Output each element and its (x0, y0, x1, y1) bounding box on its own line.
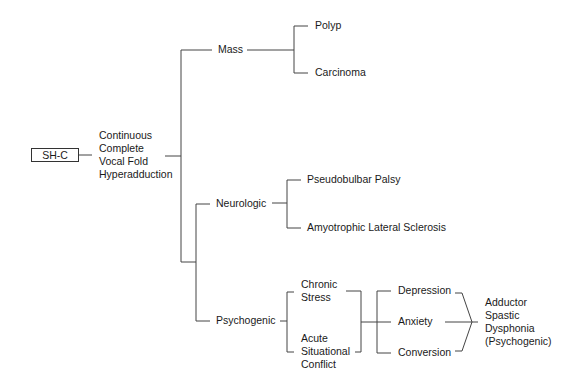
branch-mass: Mass (218, 43, 243, 56)
leaf-pseudobulbar-palsy: Pseudobulbar Palsy (307, 173, 400, 186)
leaf-carcinoma: Carcinoma (315, 66, 366, 79)
condition-depression: Depression (398, 284, 451, 297)
branch-neurologic: Neurologic (216, 197, 266, 210)
cause-chronic-stress: Chronic Stress (301, 278, 337, 304)
branch-psychogenic: Psychogenic (216, 314, 276, 327)
condition-anxiety: Anxiety (398, 315, 432, 328)
leaf-polyp: Polyp (315, 19, 341, 32)
outcome-adductor-spastic-dysphonia: Adductor Spastic Dysphonia (Psychogenic) (485, 296, 552, 348)
vocal-fold-hyperadduction-diagram: SH-C Continuous Complete Vocal Fold Hype… (0, 0, 577, 387)
cause-acute-situational-conflict: Acute Situational Conflict (301, 332, 350, 371)
root-description: Continuous Complete Vocal Fold Hyperaddu… (99, 129, 173, 181)
leaf-als: Amyotrophic Lateral Sclerosis (307, 221, 446, 234)
condition-conversion: Conversion (398, 346, 451, 359)
root-node-sh-c: SH-C (31, 148, 79, 162)
